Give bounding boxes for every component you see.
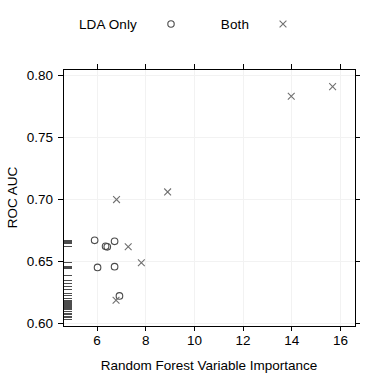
svg-text:6: 6	[93, 333, 101, 348]
svg-text:0.80: 0.80	[27, 68, 53, 83]
svg-text:0.65: 0.65	[27, 254, 53, 269]
data-point-both	[125, 243, 132, 250]
svg-text:16: 16	[333, 333, 348, 348]
series-lda-only-points	[91, 237, 122, 299]
data-point-both	[113, 297, 120, 304]
svg-text:10: 10	[187, 333, 202, 348]
data-point-both	[138, 259, 145, 266]
svg-text:8: 8	[142, 333, 150, 348]
svg-text:0.60: 0.60	[27, 316, 53, 331]
data-point-both	[164, 189, 171, 196]
grid-lines	[63, 69, 355, 326]
svg-text:0.75: 0.75	[27, 130, 53, 145]
data-point-lda-only	[116, 293, 123, 300]
svg-text:0.70: 0.70	[27, 192, 53, 207]
data-point-both	[329, 83, 336, 90]
data-point-lda-only	[111, 238, 118, 245]
data-point-lda-only	[111, 263, 118, 270]
axis-frame	[63, 69, 355, 326]
plot-canvas: 6810121416 0.600.650.700.750.80 Random F…	[0, 0, 370, 390]
svg-text:12: 12	[236, 333, 251, 348]
x-axis-label: Random Forest Variable Importance	[101, 358, 318, 373]
x-axis-ticks: 6810121416	[93, 64, 348, 348]
y-axis-rug-plot	[64, 240, 72, 319]
y-axis-label: ROC AUC	[5, 166, 20, 228]
svg-text:14: 14	[284, 333, 300, 348]
scatter-plot-figure: LDA Only Both 6810121416 0.600.650.700.7…	[0, 0, 370, 390]
